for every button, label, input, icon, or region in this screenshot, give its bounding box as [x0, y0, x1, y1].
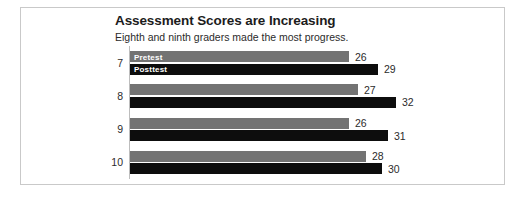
bar-value-9-posttest: 31 [394, 130, 406, 142]
category-label-10: 10 [96, 156, 123, 168]
bar-row-10-posttest: 30 [130, 163, 382, 174]
bar-9-posttest[interactable] [130, 130, 388, 141]
bar-8-pretest[interactable] [130, 84, 358, 95]
bar-group-9: 9 26 31 [96, 113, 496, 146]
bar-row-8-posttest: 32 [130, 97, 396, 108]
bar-value-9-pretest: 26 [355, 117, 367, 129]
chart-heading: Assessment Scores are Increasing Eighth … [115, 13, 485, 44]
bar-8-posttest[interactable] [130, 97, 396, 108]
bar-row-10-pretest: 28 [130, 151, 366, 162]
bar-group-7: 7 Pretest 26 Posttest 29 [96, 46, 496, 79]
category-label-8: 8 [96, 90, 123, 102]
bar-group-8: 8 27 32 [96, 79, 496, 112]
bar-7-pretest[interactable]: Pretest [130, 51, 349, 62]
bar-value-10-pretest: 28 [372, 150, 384, 162]
bar-group-10: 10 28 30 [96, 146, 496, 179]
bar-10-posttest[interactable] [130, 163, 382, 174]
chart-subtitle: Eighth and ninth graders made the most p… [115, 30, 485, 44]
bar-value-8-posttest: 32 [402, 96, 414, 108]
series-label-posttest: Posttest [134, 65, 167, 74]
chart-figure: Assessment Scores are Increasing Eighth … [20, 7, 505, 185]
bar-row-8-pretest: 27 [130, 84, 358, 95]
category-label-9: 9 [96, 123, 123, 135]
bar-row-9-posttest: 31 [130, 130, 388, 141]
bar-value-10-posttest: 30 [388, 163, 400, 175]
series-label-pretest: Pretest [134, 52, 163, 61]
bar-row-9-pretest: 26 [130, 118, 349, 129]
bar-row-7-posttest: Posttest 29 [130, 64, 378, 75]
bar-9-pretest[interactable] [130, 118, 349, 129]
bar-value-8-pretest: 27 [364, 84, 376, 96]
category-label-7: 7 [96, 57, 123, 69]
bar-10-pretest[interactable] [130, 151, 366, 162]
bar-value-7-pretest: 26 [355, 51, 367, 63]
bar-value-7-posttest: 29 [384, 63, 396, 75]
bar-7-posttest[interactable]: Posttest [130, 64, 378, 75]
bar-row-7-pretest: Pretest 26 [130, 51, 349, 62]
plot-area: 7 Pretest 26 Posttest 29 8 27 [96, 46, 496, 179]
chart-title: Assessment Scores are Increasing [115, 13, 485, 28]
